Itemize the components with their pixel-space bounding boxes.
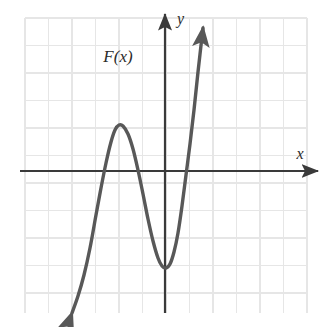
curve-label: F(x) (102, 47, 133, 66)
graph-figure: F(x) y x (0, 0, 331, 327)
plot-canvas: F(x) y x (0, 0, 331, 327)
y-axis-label: y (175, 10, 185, 28)
x-axis-label: x (295, 145, 303, 162)
